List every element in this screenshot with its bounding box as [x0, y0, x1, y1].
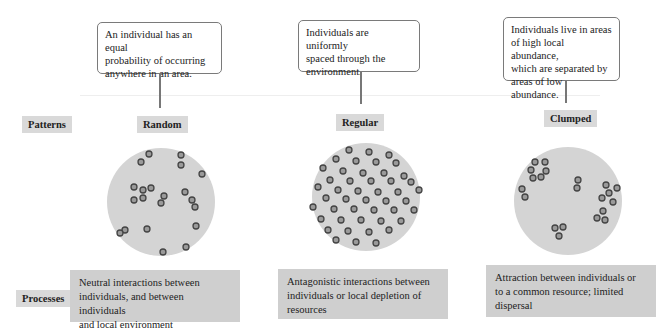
- process-text: individuals, and between individuals: [79, 290, 231, 318]
- process-text: individuals or local depletion of: [287, 289, 439, 303]
- process-text: Antagonistic interactions between: [287, 275, 439, 289]
- process-regular: Antagonistic interactions between indivi…: [278, 269, 448, 319]
- row-label-processes: Processes: [16, 290, 70, 307]
- process-text: Neutral interactions between: [79, 276, 231, 290]
- process-text: and local environment: [79, 318, 231, 332]
- process-text: resources: [287, 303, 439, 317]
- process-clumped: Attraction between individuals or to a c…: [486, 265, 656, 317]
- process-text: to a common resource; limited: [495, 285, 647, 299]
- process-text: Attraction between individuals or: [495, 271, 647, 285]
- process-text: dispersal: [495, 299, 647, 313]
- process-random: Neutral interactions between individuals…: [70, 270, 240, 322]
